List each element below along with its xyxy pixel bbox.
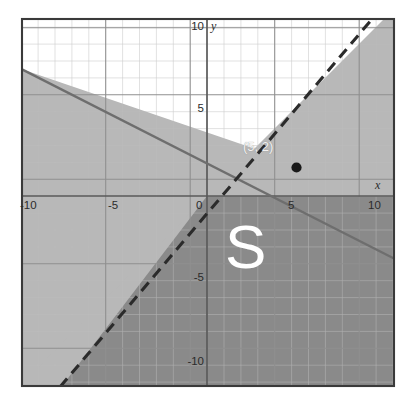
y-tick-label-5: 5 (184, 102, 204, 114)
y-tick-label-neg5: -5 (176, 271, 204, 283)
x-tick-label-neg5: -5 (108, 199, 118, 211)
y-tick-label-10: 10 (184, 20, 204, 32)
x-tick-label-0: 0 (196, 199, 202, 211)
x-tick-label-10: 10 (368, 199, 381, 211)
solution-region-label: S (225, 216, 266, 278)
test-point-label: (5, 2) (243, 139, 273, 154)
coordinate-plane (0, 0, 412, 401)
x-tick-label-5: 5 (288, 199, 294, 211)
graph-figure: 10 5 -5 -10 -10 -5 0 5 10 y x S (5, 2) (0, 0, 412, 401)
y-tick-label-neg10: -10 (174, 355, 204, 367)
x-tick-label-neg10: -10 (20, 199, 37, 211)
test-point (291, 162, 301, 172)
y-axis-label: y (211, 19, 216, 34)
x-axis-label: x (375, 178, 380, 193)
